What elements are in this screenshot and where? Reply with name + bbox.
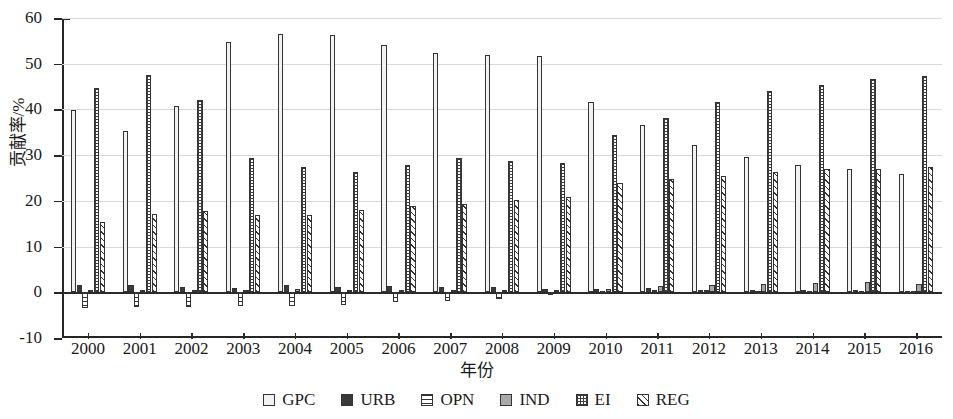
bar-reg-2016 xyxy=(928,167,933,293)
bar-ei-2010 xyxy=(612,135,617,292)
bar-ind-2014 xyxy=(813,283,818,292)
x-axis-title: 年份 xyxy=(0,356,953,381)
y-axis-title: 贡献率/% xyxy=(4,83,29,183)
bar-reg-2000 xyxy=(100,222,105,292)
legend-item-ind[interactable]: IND xyxy=(500,391,549,408)
bar-group xyxy=(838,18,890,338)
bar-reg-2006 xyxy=(410,206,415,292)
bar-gpc-2006 xyxy=(381,45,386,293)
bar-ind-2000 xyxy=(88,290,93,292)
bar-urb-2007 xyxy=(439,287,444,292)
y-axis-tick-label: 50 xyxy=(25,55,42,72)
legend-label-reg: REG xyxy=(656,391,690,408)
bar-group xyxy=(528,18,580,338)
bar-urb-2010 xyxy=(594,289,599,292)
bar-reg-2004 xyxy=(307,215,312,292)
bar-opn-2000 xyxy=(82,292,87,308)
bar-urb-2009 xyxy=(542,289,547,293)
y-axis-tick: 50 xyxy=(54,64,62,66)
x-axis-label-2010: 2010 xyxy=(589,340,623,357)
y-axis-tick-label: 40 xyxy=(25,101,42,118)
bar-ind-2012 xyxy=(709,285,714,292)
bar-gpc-2005 xyxy=(330,35,335,292)
bar-ei-2001 xyxy=(146,75,151,293)
bar-ind-2013 xyxy=(761,284,766,293)
bar-group xyxy=(114,18,166,338)
bar-ei-2011 xyxy=(663,118,668,293)
bar-gpc-2009 xyxy=(537,56,542,292)
bar-gpc-2003 xyxy=(226,42,231,293)
x-axis-label-2009: 2009 xyxy=(537,340,571,357)
bar-ind-2010 xyxy=(606,289,611,292)
y-axis-tick: -10 xyxy=(54,338,62,340)
legend-label-opn: OPN xyxy=(440,391,474,408)
y-axis-tick: 0 xyxy=(54,292,62,294)
y-axis-tick: 20 xyxy=(54,201,62,203)
legend-label-urb: URB xyxy=(360,391,395,408)
bar-group xyxy=(166,18,218,338)
bar-urb-2013 xyxy=(750,290,755,292)
x-axis-label-2007: 2007 xyxy=(433,340,467,357)
bar-reg-2003 xyxy=(255,215,260,292)
bar-urb-2014 xyxy=(801,290,806,292)
legend-item-gpc[interactable]: GPC xyxy=(263,391,315,408)
y-axis-tick: 30 xyxy=(54,155,62,157)
bar-ind-2006 xyxy=(399,290,404,293)
bar-opn-2005 xyxy=(341,292,346,304)
y-axis-tick-label: 30 xyxy=(25,146,42,163)
bar-ind-2005 xyxy=(347,290,352,293)
bar-urb-2012 xyxy=(698,290,703,293)
bar-urb-2015 xyxy=(853,290,858,292)
x-axis-label-2011: 2011 xyxy=(641,340,674,357)
x-axis-label-2016: 2016 xyxy=(899,340,933,357)
bar-gpc-2000 xyxy=(71,110,76,292)
bar-urb-2002 xyxy=(180,287,185,292)
y-axis-tick-label: 10 xyxy=(25,238,42,255)
bar-urb-2001 xyxy=(128,285,133,292)
bar-gpc-2007 xyxy=(433,53,438,293)
bar-opn-2016 xyxy=(911,291,916,293)
legend-label-gpc: GPC xyxy=(282,391,315,408)
bar-ei-2005 xyxy=(353,172,358,293)
legend-swatch-urb-icon xyxy=(341,394,353,406)
bar-urb-2005 xyxy=(335,287,340,292)
bar-ei-2012 xyxy=(715,102,720,292)
bar-ei-2006 xyxy=(405,165,410,292)
bar-gpc-2010 xyxy=(588,102,593,292)
bar-opn-2011 xyxy=(652,290,657,292)
bar-reg-2001 xyxy=(152,214,157,293)
bar-group xyxy=(373,18,425,338)
bar-ei-2003 xyxy=(249,158,254,292)
bar-ei-2014 xyxy=(819,85,824,293)
bar-opn-2012 xyxy=(704,290,709,292)
bar-group xyxy=(424,18,476,338)
bar-group xyxy=(787,18,839,338)
bar-ei-2016 xyxy=(922,76,927,293)
legend-item-ei[interactable]: EI xyxy=(576,391,611,408)
bar-urb-2006 xyxy=(387,286,392,292)
bar-ei-2013 xyxy=(767,91,772,293)
bar-group xyxy=(580,18,632,338)
y-axis-tick: 60 xyxy=(54,18,62,20)
bar-reg-2010 xyxy=(617,183,622,293)
chart-legend: GPCURBOPNINDEIREG xyxy=(0,391,953,408)
x-axis-label-2004: 2004 xyxy=(278,340,312,357)
bar-ind-2009 xyxy=(554,290,559,292)
legend-item-urb[interactable]: URB xyxy=(341,391,395,408)
bar-ind-2001 xyxy=(140,290,145,292)
x-axis-label-2001: 2001 xyxy=(123,340,157,357)
bar-group xyxy=(62,18,114,338)
legend-item-reg[interactable]: REG xyxy=(637,391,690,408)
bar-ei-2002 xyxy=(197,100,202,292)
plot-area: -100102030405060 20002001200220032004200… xyxy=(62,18,942,338)
x-axis-label-2003: 2003 xyxy=(226,340,260,357)
y-axis-tick-label: -10 xyxy=(19,329,42,346)
bar-opn-2008 xyxy=(496,292,501,299)
x-axis-label-2015: 2015 xyxy=(847,340,881,357)
bar-gpc-2008 xyxy=(485,55,490,293)
bar-opn-2001 xyxy=(134,292,139,307)
bar-opn-2004 xyxy=(289,292,294,306)
legend-item-opn[interactable]: OPN xyxy=(421,391,474,408)
bar-opn-2002 xyxy=(186,292,191,307)
bar-urb-2000 xyxy=(77,285,82,292)
